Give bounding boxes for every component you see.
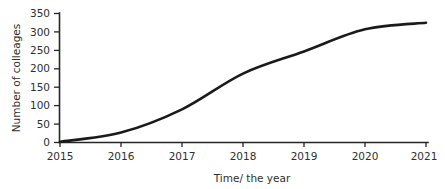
x-tick-label: 2021 [411, 150, 438, 162]
y-tick-label: 250 [30, 44, 50, 56]
line-chart: 0 50 100 150 200 250 300 350 2015 2016 2… [0, 0, 445, 189]
y-tick-label: 350 [30, 7, 50, 19]
y-tick-label: 150 [30, 81, 50, 93]
y-tick-label: 100 [30, 99, 50, 111]
x-tick-label: 2017 [169, 150, 196, 162]
y-axis-title: Number of colleages [10, 24, 22, 133]
x-tick-label: 2019 [291, 150, 318, 162]
x-tick-label: 2015 [47, 150, 74, 162]
y-tick-labels: 0 50 100 150 200 250 300 350 [30, 7, 50, 148]
x-axis-title: Time/ the year [213, 172, 291, 184]
y-tick-label: 200 [30, 62, 50, 74]
data-series-line [60, 23, 426, 142]
y-tick-marks [54, 14, 60, 143]
x-tick-label: 2018 [230, 150, 257, 162]
chart-canvas: 0 50 100 150 200 250 300 350 2015 2016 2… [0, 0, 445, 189]
x-tick-label: 2016 [108, 150, 135, 162]
y-tick-label: 50 [37, 118, 50, 130]
y-tick-label: 300 [30, 26, 50, 38]
x-tick-label: 2020 [352, 150, 379, 162]
x-tick-labels: 2015 2016 2017 2018 2019 2020 2021 [47, 150, 438, 162]
y-tick-label: 0 [43, 136, 50, 148]
